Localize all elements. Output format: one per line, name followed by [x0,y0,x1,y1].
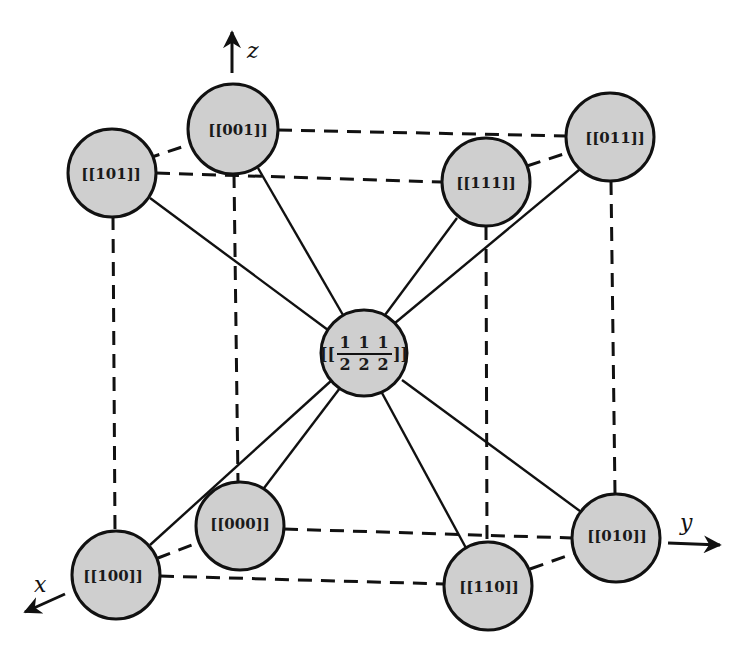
node-label: [[100]] [83,567,143,585]
node-111: [[111]] [442,138,530,226]
node-010: [[010]] [572,494,660,582]
numerator-3: 1 [377,333,388,352]
edge-111-110 [486,226,487,542]
edge-101-111 [156,173,442,182]
node-011: [[011]] [566,93,654,181]
bracket-close: ]] [393,345,408,364]
node-101: [[101]] [68,129,156,217]
node-100: [[100]] [72,531,160,619]
edge-011-010 [611,181,615,494]
y-axis-arrow [668,543,720,545]
bond-center-001 [258,168,343,315]
node-center: [[ 1 1 1 2 2 2 ]] [320,310,408,396]
edge-100-110 [160,576,444,584]
node-label: [[011]] [585,129,645,147]
node-001: [[001]] [188,84,278,174]
z-axis-label: z [246,38,259,63]
bond-center-110 [382,393,466,548]
node-000: [[000]] [196,482,284,570]
denominator-1: 2 [339,355,350,374]
node-label: [[101]] [81,165,141,183]
bond-center-000 [258,388,340,496]
node-label: [[001]] [208,121,268,139]
y-axis-label: y [679,510,693,535]
denominator-2: 2 [358,355,369,374]
x-axis-label: x [34,572,47,597]
bond-center-010 [402,380,588,517]
bracket-open: [[ [320,345,335,364]
edge-000-010 [284,529,572,538]
denominator-3: 2 [377,355,388,374]
numerator-1: 1 [339,333,350,352]
node-label: [[111]] [456,174,516,192]
numerator-2: 1 [358,333,369,352]
node-110: [[110]] [444,542,532,630]
bond-center-101 [150,198,328,330]
edge-001-000 [234,174,238,482]
node-label: [[000]] [210,515,270,533]
node-label: [[010]] [587,527,647,545]
edge-001-011 [278,130,566,136]
bcc-lattice-diagram: z y x [[001]] [[101]] [[111]] [[011]] [[… [0,0,747,652]
node-label: [[110]] [459,578,519,596]
edge-101-100 [113,216,115,531]
